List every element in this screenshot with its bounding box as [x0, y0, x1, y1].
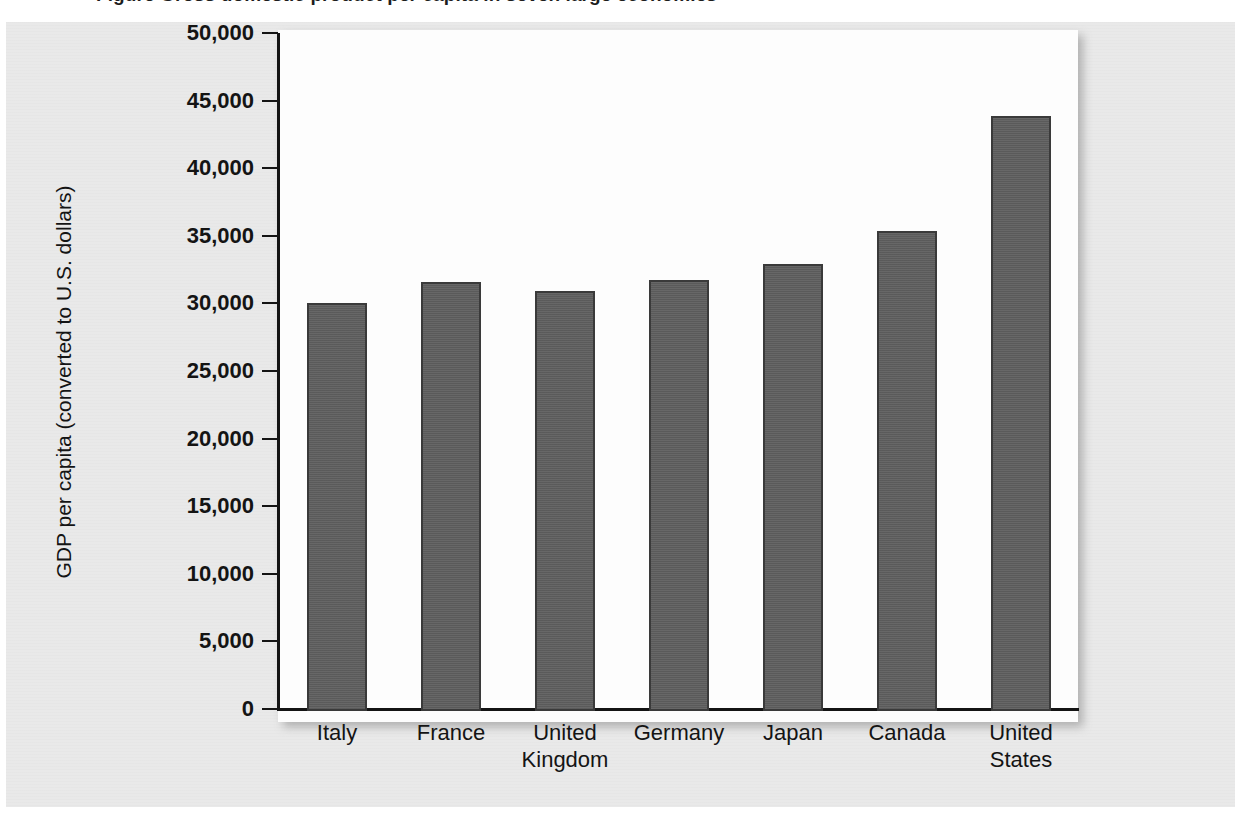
y-axis-tick [262, 640, 278, 642]
bar [877, 231, 937, 711]
x-axis-category-label: UnitedStates [964, 719, 1078, 773]
x-axis-category-label: Italy [280, 719, 394, 746]
x-axis-category-label: Canada [850, 719, 964, 746]
category-label-line: Canada [850, 719, 964, 746]
bar [535, 291, 595, 711]
y-axis-tick [262, 573, 278, 575]
x-axis-category-label: UnitedKingdom [508, 719, 622, 773]
scanned-page-panel: 05,00010,00015,00020,00025,00030,00035,0… [6, 22, 1235, 807]
category-label-line: United [964, 719, 1078, 746]
y-axis-tick-label: 15,000 [134, 493, 254, 519]
category-label-line: Kingdom [508, 746, 622, 773]
y-axis-tick-label: 45,000 [134, 88, 254, 114]
figure-caption-strip: Figure Gross domestic product per capita… [0, 0, 1235, 22]
x-axis-category-labels: ItalyFranceUnitedKingdomGermanyJapanCana… [280, 719, 1078, 799]
y-axis-tick-label: 10,000 [134, 561, 254, 587]
y-axis-tick-label: 40,000 [134, 155, 254, 181]
y-axis-tick [262, 167, 278, 169]
bar [649, 280, 709, 711]
y-axis-tick [262, 32, 278, 34]
bar [991, 116, 1051, 711]
y-axis-tick-label: 35,000 [134, 223, 254, 249]
y-axis-title: GDP per capita (converted to U.S. dollar… [52, 102, 76, 662]
y-axis-tick [262, 438, 278, 440]
bar [763, 264, 823, 712]
figure-caption: Figure Gross domestic product per capita… [96, 0, 717, 6]
category-label-line: Italy [280, 719, 394, 746]
bar-series [280, 33, 1078, 711]
y-axis-tick-label: 25,000 [134, 358, 254, 384]
bar [307, 303, 367, 711]
x-axis-category-label: Japan [736, 719, 850, 746]
category-label-line: Germany [622, 719, 736, 746]
category-label-line: Japan [736, 719, 850, 746]
y-axis-tick [262, 708, 278, 710]
y-axis-tick [262, 100, 278, 102]
category-label-line: France [394, 719, 508, 746]
x-axis-category-label: France [394, 719, 508, 746]
category-label-line: United [508, 719, 622, 746]
bar [421, 282, 481, 711]
y-axis-tick-label: 5,000 [134, 628, 254, 654]
y-axis-tick-label: 20,000 [134, 426, 254, 452]
y-axis-tick [262, 370, 278, 372]
y-axis-tick-label: 30,000 [134, 290, 254, 316]
category-label-line: States [964, 746, 1078, 773]
y-axis-tick [262, 505, 278, 507]
y-axis-tick [262, 302, 278, 304]
y-axis-tick-label: 50,000 [134, 20, 254, 46]
y-axis-tick-label: 0 [134, 696, 254, 722]
x-axis-category-label: Germany [622, 719, 736, 746]
y-axis-tick [262, 235, 278, 237]
